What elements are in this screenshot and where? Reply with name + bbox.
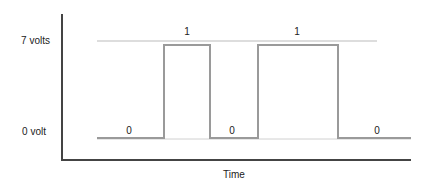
bit-label: 0 <box>229 126 235 136</box>
square-wave-signal <box>97 45 411 138</box>
bit-label: 1 <box>184 27 190 37</box>
waveform-canvas <box>0 0 424 185</box>
y-label-low: 0 volt <box>0 127 46 137</box>
bit-label: 0 <box>126 126 132 136</box>
x-axis-label: Time <box>223 170 245 180</box>
y-label-high: 7 volts <box>0 36 50 46</box>
bit-label: 0 <box>374 126 380 136</box>
bit-label: 1 <box>294 27 300 37</box>
